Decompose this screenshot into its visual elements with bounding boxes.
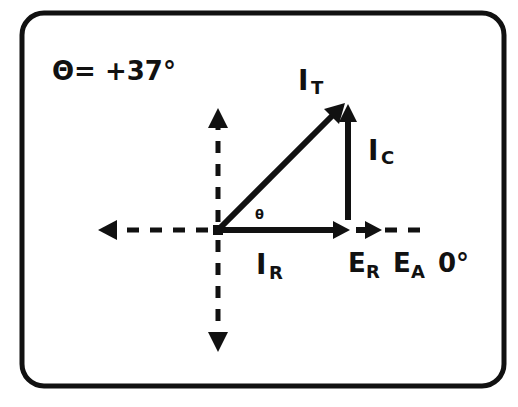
er-label: E R (348, 248, 380, 282)
it-label: I T (298, 64, 324, 98)
svg-text:R: R (269, 262, 283, 283)
svg-text:R: R (366, 261, 380, 282)
ic-label: I C (368, 134, 394, 168)
it-vector (218, 103, 345, 230)
ea-label: E A (393, 248, 425, 282)
svg-text:T: T (311, 77, 324, 98)
svg-text:I: I (256, 248, 266, 281)
svg-text:A: A (411, 261, 425, 282)
phase-angle-label: Θ= +37° (52, 56, 176, 86)
svg-text:I: I (368, 134, 378, 167)
theta-symbol: θ (255, 207, 264, 222)
ic-vector (339, 104, 357, 220)
svg-text:E: E (348, 248, 366, 278)
svg-text:I: I (298, 64, 308, 97)
svg-text:E: E (393, 248, 411, 278)
reference-angle-label: 0° (438, 248, 469, 278)
ir-arrowhead-icon (333, 221, 350, 239)
down-arrow-icon (208, 332, 228, 352)
voltage-arrowhead-icon (365, 221, 382, 239)
up-arrow-icon (208, 108, 228, 128)
ir-label: I R (256, 248, 283, 283)
phasor-diagram: Θ= +37° θ I T I C I R E R E A 0° (0, 0, 518, 407)
svg-text:C: C (381, 147, 394, 168)
voltage-reference-arrow (356, 221, 382, 239)
ir-vector (218, 221, 350, 239)
left-arrow-icon (98, 220, 117, 240)
